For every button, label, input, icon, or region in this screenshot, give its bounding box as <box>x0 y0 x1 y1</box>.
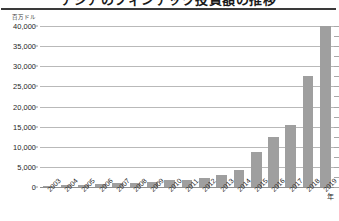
bar-slot <box>161 26 178 187</box>
right-axis-minor-tick <box>334 56 339 57</box>
y-axis-tick-mark <box>34 126 38 127</box>
y-axis-tick-label: 30,000 <box>13 62 36 71</box>
y-axis-tick-label: 25,000 <box>13 82 36 91</box>
bar-slot <box>144 26 161 187</box>
plot-area <box>40 26 334 187</box>
y-axis-tick-label: 10,000 <box>13 142 36 151</box>
bar-slot <box>109 26 126 187</box>
right-axis-tick <box>334 26 339 27</box>
bar-slot <box>196 26 213 187</box>
y-axis-tick-label: 40,000 <box>13 22 36 31</box>
x-axis-ticks: 2003200420052006200720082009201020112012… <box>40 188 334 221</box>
bar-slot <box>126 26 143 187</box>
y-axis-tick-label: 15,000 <box>13 122 36 131</box>
bar-slot <box>178 26 195 187</box>
right-axis-minor-tick <box>334 137 339 138</box>
y-axis-tick-mark <box>34 146 38 147</box>
right-axis-tick <box>334 107 339 108</box>
bar[interactable] <box>320 26 331 187</box>
right-axis-tick <box>334 187 339 188</box>
title-divider <box>1 8 336 10</box>
x-axis-unit-label: 年 <box>327 191 334 201</box>
y-axis-tick-mark <box>34 46 38 47</box>
right-axis-tick <box>334 66 339 67</box>
bar-slot <box>282 26 299 187</box>
right-axis-minor-tick <box>334 96 339 97</box>
right-axis-minor-tick <box>334 36 339 37</box>
bar[interactable] <box>303 76 314 187</box>
bar-slot <box>265 26 282 187</box>
y-axis-tick-mark <box>34 66 38 67</box>
y-axis-tick-mark <box>34 86 38 87</box>
y-axis-tick-label: 20,000 <box>13 102 36 111</box>
right-axis-tick <box>334 147 339 148</box>
right-axis-minor-tick <box>334 117 339 118</box>
y-axis-tick-mark <box>34 166 38 167</box>
bar[interactable] <box>285 125 296 187</box>
bar-slot <box>299 26 316 187</box>
bar-slot <box>57 26 74 187</box>
bar-slot <box>317 26 334 187</box>
right-axis-minor-tick <box>334 76 339 77</box>
bar-slot <box>230 26 247 187</box>
bar-slot <box>40 26 57 187</box>
page-title: アジアのフィンテック投資額の推移 <box>0 0 337 8</box>
right-axis-tick <box>334 86 339 87</box>
bar-slot <box>75 26 92 187</box>
y-axis-tick-mark <box>34 26 38 27</box>
right-axis-tick <box>334 46 339 47</box>
bar-slot <box>213 26 230 187</box>
bar-slot <box>248 26 265 187</box>
y-axis-tick-mark <box>34 106 38 107</box>
y-axis-tick-mark <box>34 187 38 188</box>
bar-slot <box>92 26 109 187</box>
y-axis-unit-label: 百万ドル <box>12 13 36 21</box>
bar-series <box>40 26 334 187</box>
y-axis-tick-label: 35,000 <box>13 42 36 51</box>
right-axis-minor-tick <box>334 157 339 158</box>
right-axis-tick <box>334 127 339 128</box>
right-axis-tick <box>334 167 339 168</box>
